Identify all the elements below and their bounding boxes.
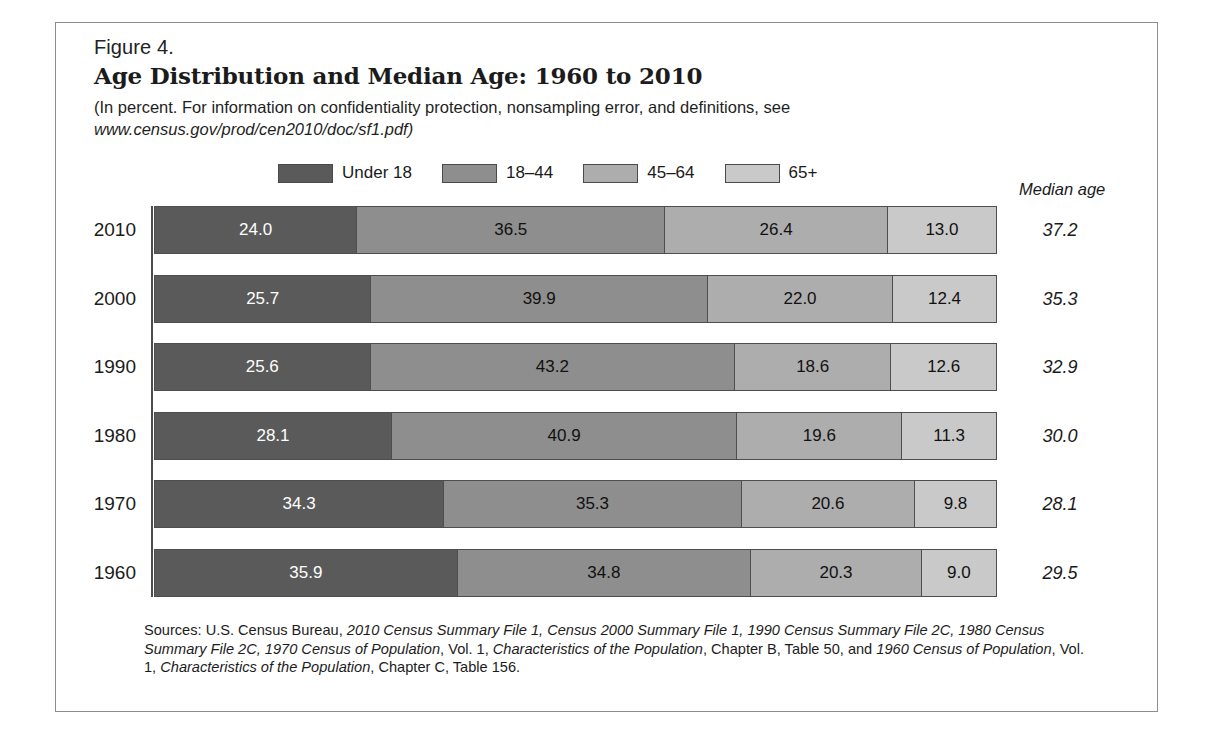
bar-segment-value: 9.0 <box>947 563 971 583</box>
bar-segment-value: 12.4 <box>928 289 961 309</box>
figure-title: Age Distribution and Median Age: 1960 to… <box>94 62 702 89</box>
bar-segment-value: 20.6 <box>811 494 844 514</box>
legend-item: 18–44 <box>442 163 553 183</box>
source-note-part: Characteristics of the Population <box>160 659 370 675</box>
bar-segment-value: 35.9 <box>289 563 322 583</box>
bar-segment-value: 13.0 <box>925 220 958 240</box>
median-age-column-header: Median age <box>1019 180 1105 199</box>
figure-subtitle-url: www.census.gov/prod/cen2010/doc/sf1.pdf) <box>94 120 413 138</box>
year-label: 1980 <box>44 412 136 460</box>
bar-segment: 20.6 <box>741 480 915 528</box>
bar-segment-value: 36.5 <box>494 220 527 240</box>
bar-segment: 35.3 <box>443 480 742 528</box>
bar-segment-value: 34.3 <box>283 494 316 514</box>
bar-segment-value: 25.6 <box>246 357 279 377</box>
bar-segment-value: 20.3 <box>819 563 852 583</box>
bar-segment: 9.0 <box>921 549 997 597</box>
source-note-part: , Vol. 1, <box>440 641 493 657</box>
legend-item: 45–64 <box>583 163 694 183</box>
bar-segment: 22.0 <box>707 275 893 323</box>
source-note-part: Characteristics of the Population <box>493 641 703 657</box>
bar-segment-value: 35.3 <box>576 494 609 514</box>
bar-segment: 39.9 <box>370 275 708 323</box>
bar-segment-value: 19.6 <box>803 426 836 446</box>
year-label: 1990 <box>44 343 136 391</box>
bar-segment-value: 40.9 <box>548 426 581 446</box>
median-age-value: 32.9 <box>1020 343 1100 391</box>
legend-swatch-icon <box>583 164 638 183</box>
source-note-part: 1960 Census of Population <box>876 641 1051 657</box>
bar-segment-value: 43.2 <box>536 357 569 377</box>
bar-segment-value: 18.6 <box>796 357 829 377</box>
figure-number: Figure 4. <box>94 36 174 59</box>
bar-row: 24.036.526.413.0 <box>154 206 1000 254</box>
y-axis-line <box>151 206 153 597</box>
legend-item: Under 18 <box>278 163 412 183</box>
bar-segment-value: 26.4 <box>760 220 793 240</box>
bar-segment: 20.3 <box>750 549 922 597</box>
year-label: 2000 <box>44 275 136 323</box>
source-note-part: , Chapter B, Table 50, and <box>703 641 876 657</box>
year-label: 1970 <box>44 480 136 528</box>
bar-segment: 34.8 <box>457 549 751 597</box>
bar-segment: 25.6 <box>154 343 371 391</box>
bar-segment: 28.1 <box>154 412 392 460</box>
bar-segment-value: 24.0 <box>239 220 272 240</box>
bar-segment: 18.6 <box>734 343 891 391</box>
bar-segment: 13.0 <box>887 206 997 254</box>
bar-segment: 24.0 <box>154 206 357 254</box>
bar-segment: 12.4 <box>892 275 997 323</box>
bar-row: 28.140.919.611.3 <box>154 412 1000 460</box>
bar-segment-value: 9.8 <box>944 494 968 514</box>
bar-segment: 40.9 <box>391 412 737 460</box>
bar-row: 35.934.820.39.0 <box>154 549 1000 597</box>
bar-segment-value: 28.1 <box>256 426 289 446</box>
median-age-value: 37.2 <box>1020 206 1100 254</box>
bar-row: 25.739.922.012.4 <box>154 275 1000 323</box>
year-label: 1960 <box>44 549 136 597</box>
bar-segment: 19.6 <box>736 412 902 460</box>
legend-swatch-icon <box>442 164 497 183</box>
legend-swatch-icon <box>278 164 333 183</box>
bar-row: 25.643.218.612.6 <box>154 343 1000 391</box>
legend-label: 65+ <box>789 163 818 183</box>
stacked-bar-chart: 201024.036.526.413.037.2200025.739.922.0… <box>154 206 1000 597</box>
bar-segment: 36.5 <box>356 206 665 254</box>
bar-segment-value: 22.0 <box>783 289 816 309</box>
legend-label: 45–64 <box>647 163 694 183</box>
chart-legend: Under 1818–4445–6465+ <box>278 163 817 183</box>
source-note-part: , Chapter C, Table 156. <box>370 659 520 675</box>
figure-subtitle: (In percent. For information on confiden… <box>94 96 994 140</box>
legend-label: 18–44 <box>506 163 553 183</box>
source-note: Sources: U.S. Census Bureau, 2010 Census… <box>144 621 1094 677</box>
median-age-value: 29.5 <box>1020 549 1100 597</box>
source-note-part: Sources: U.S. Census Bureau, <box>144 622 347 638</box>
bar-segment: 11.3 <box>901 412 997 460</box>
bar-segment: 43.2 <box>370 343 735 391</box>
legend-swatch-icon <box>725 164 780 183</box>
bar-row: 34.335.320.69.8 <box>154 480 1000 528</box>
year-label: 2010 <box>44 206 136 254</box>
bar-segment: 26.4 <box>664 206 888 254</box>
bar-segment-value: 25.7 <box>246 289 279 309</box>
bar-segment-value: 11.3 <box>933 426 965 446</box>
bar-segment: 25.7 <box>154 275 371 323</box>
bar-segment-value: 34.8 <box>587 563 620 583</box>
median-age-value: 28.1 <box>1020 480 1100 528</box>
bar-segment: 9.8 <box>914 480 997 528</box>
bar-segment: 34.3 <box>154 480 444 528</box>
figure-subtitle-text: (In percent. For information on confiden… <box>94 98 790 116</box>
bar-segment: 35.9 <box>154 549 458 597</box>
legend-label: Under 18 <box>342 163 412 183</box>
median-age-value: 30.0 <box>1020 412 1100 460</box>
bar-segment-value: 39.9 <box>523 289 556 309</box>
bar-segment-value: 12.6 <box>927 357 960 377</box>
legend-item: 65+ <box>725 163 818 183</box>
bar-segment: 12.6 <box>890 343 997 391</box>
median-age-value: 35.3 <box>1020 275 1100 323</box>
